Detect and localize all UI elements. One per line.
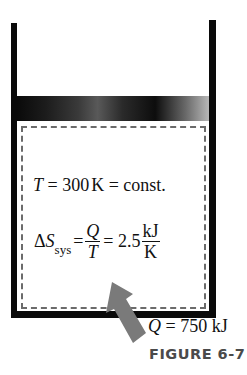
heat-symbol: Q bbox=[148, 316, 161, 336]
figure-caption: FIGURE 6-7 bbox=[149, 346, 245, 362]
heat-value: = 750 kJ bbox=[161, 316, 228, 336]
heat-input-label: Q = 750 kJ bbox=[148, 316, 228, 337]
